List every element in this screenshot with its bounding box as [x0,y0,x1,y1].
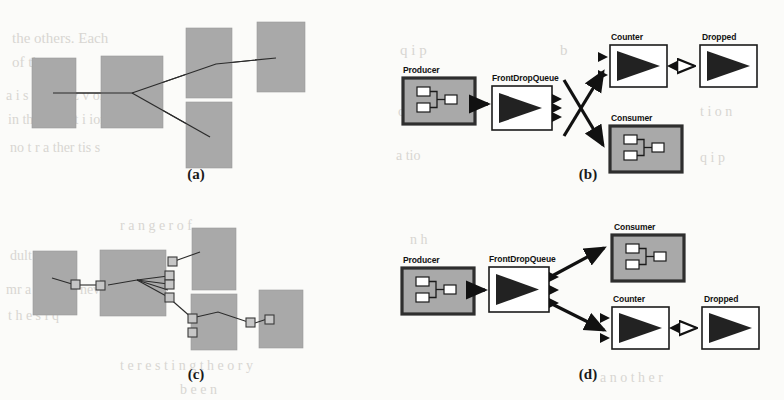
panel-c: (c) [0,200,392,400]
edge-frontdropqueue-counter [564,72,603,136]
edge-counter-dropped [667,61,694,71]
panel-a-block-4 [186,102,232,168]
frontdropqueue-out-ports [552,94,562,122]
node-counter[interactable] [610,45,667,87]
label-producer: Producer [403,255,440,265]
figure: (a) Producer [0,0,784,400]
panel-c-block-3 [192,228,236,290]
label-consumer: Consumer [614,222,656,232]
node-frontdropqueue[interactable] [492,86,552,130]
panel-a-block-5 [257,22,305,92]
node-consumer[interactable] [612,235,684,281]
frontdropqueue-out-ports [549,272,559,308]
panel-a-block-2 [101,56,163,128]
caption-d: (d) [558,366,618,383]
label-counter: Counter [611,32,644,42]
panel-d: Producer FrontDropQueue Co [392,200,784,400]
panel-b: Producer FrontDropQueue [392,0,784,200]
edge-frontdropqueue-consumer [552,248,604,276]
node-counter[interactable] [612,307,669,349]
panel-a: (a) [0,0,392,200]
label-dropped: Dropped [702,32,736,42]
label-frontdropqueue: FrontDropQueue [492,73,559,83]
node-dropped[interactable] [700,45,757,87]
node-consumer[interactable] [610,126,682,172]
edge-frontdropqueue-counter [552,304,604,330]
node-frontdropqueue[interactable] [489,267,549,312]
label-frontdropqueue: FrontDropQueue [489,254,556,264]
caption-a: (a) [166,166,226,183]
node-producer[interactable] [403,78,475,124]
edge-counter-dropped [669,323,696,333]
label-consumer: Consumer [611,113,653,123]
panel-a-blocks [32,22,305,168]
panel-a-connectors-overlay [53,58,276,137]
label-dropped: Dropped [704,294,738,304]
panel-a-connectors [53,58,276,137]
caption-b: (b) [558,166,618,183]
caption-c: (c) [166,366,226,383]
edge-frontdropqueue-consumer [564,80,603,145]
node-producer[interactable] [402,268,474,314]
node-dropped[interactable] [702,307,759,349]
panel-c-block-4 [191,294,237,350]
counter-in-ports [598,52,608,80]
label-counter: Counter [613,294,646,304]
label-producer: Producer [403,65,440,75]
